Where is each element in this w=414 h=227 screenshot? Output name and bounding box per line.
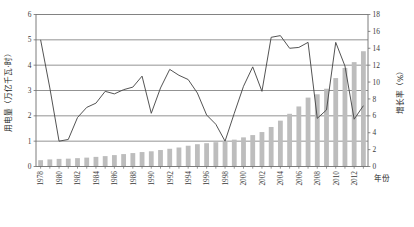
tick-label-x: 1986 xyxy=(110,171,119,186)
tick-label-left: 3 xyxy=(28,86,32,95)
bar-consumption xyxy=(186,146,191,167)
bar-consumption xyxy=(47,159,52,166)
bar-consumption xyxy=(57,159,62,167)
bar-consumption xyxy=(306,98,311,167)
tick-label-right: 12 xyxy=(373,61,381,70)
bar-consumption xyxy=(223,141,228,166)
bar-consumption xyxy=(38,160,43,166)
tick-label-left: 5 xyxy=(28,35,32,44)
bar-consumption xyxy=(232,140,237,167)
tick-label-x: 1984 xyxy=(92,171,101,186)
tick-label-x: 2008 xyxy=(313,171,322,186)
tick-label-x: 2012 xyxy=(350,171,359,186)
tick-label-right: 6 xyxy=(373,111,377,120)
bar-consumption xyxy=(140,152,145,166)
bar-consumption xyxy=(250,135,255,166)
bar-consumption xyxy=(333,78,338,166)
bar-consumption xyxy=(287,114,292,167)
tick-label-x: 2006 xyxy=(295,171,304,186)
tick-label-x: 2002 xyxy=(258,171,267,186)
bar-consumption xyxy=(204,143,209,166)
tick-label-left: 0 xyxy=(28,162,32,171)
bar-consumption xyxy=(278,121,283,167)
bar-consumption xyxy=(84,158,89,167)
bar-consumption xyxy=(130,153,135,166)
bar-consumption xyxy=(103,156,108,166)
tick-label-right: 2 xyxy=(373,145,377,154)
tick-label-left: 1 xyxy=(28,137,32,146)
bar-consumption xyxy=(352,62,357,166)
tick-label-right: 10 xyxy=(373,78,381,87)
bar-consumption xyxy=(167,149,172,167)
tick-label-left: 2 xyxy=(28,111,32,120)
bar-consumption xyxy=(195,144,200,166)
bar-consumption xyxy=(177,148,182,167)
electricity-consumption-growth-chart: 0123456024681012141618197819801982198419… xyxy=(0,0,414,227)
bar-consumption xyxy=(158,150,163,166)
tick-label-x: 1982 xyxy=(73,171,82,186)
figure-caption xyxy=(0,219,414,227)
axis-title-left: 用电量（万亿千瓦·时） xyxy=(3,49,13,131)
bar-consumption xyxy=(213,142,218,166)
axis-title-x: 年份 xyxy=(374,173,390,183)
bar-consumption xyxy=(241,137,246,166)
bar-consumption xyxy=(121,154,126,166)
bar-consumption xyxy=(260,132,265,166)
tick-label-x: 1994 xyxy=(184,171,193,186)
tick-label-left: 4 xyxy=(28,61,32,70)
bar-consumption xyxy=(112,155,117,166)
bar-consumption xyxy=(149,151,154,166)
bar-consumption xyxy=(66,159,71,167)
tick-label-x: 2000 xyxy=(239,171,248,186)
tick-label-x: 1988 xyxy=(129,171,138,186)
tick-label-x: 2004 xyxy=(276,171,285,186)
tick-label-right: 8 xyxy=(373,95,377,104)
tick-label-right: 18 xyxy=(373,10,381,19)
tick-label-x: 1980 xyxy=(55,171,64,186)
tick-label-right: 4 xyxy=(373,128,377,137)
tick-label-left: 6 xyxy=(28,10,32,19)
bar-consumption xyxy=(75,158,80,166)
bar-consumption xyxy=(269,127,274,167)
chart-figure: 0123456024681012141618197819801982198419… xyxy=(0,0,414,227)
tick-label-x: 1990 xyxy=(147,171,156,186)
axis-title-right: 增长率（%） xyxy=(395,67,405,114)
bar-consumption xyxy=(296,106,301,166)
tick-label-right: 14 xyxy=(373,44,381,53)
tick-label-x: 2010 xyxy=(332,171,341,186)
tick-label-x: 1992 xyxy=(166,171,175,186)
bar-consumption xyxy=(343,68,348,167)
tick-label-x: 1978 xyxy=(36,171,45,186)
tick-label-right: 0 xyxy=(373,162,377,171)
bar-consumption xyxy=(94,157,99,167)
tick-label-x: 1998 xyxy=(221,171,230,186)
tick-label-x: 1996 xyxy=(202,171,211,186)
tick-label-right: 16 xyxy=(373,27,381,36)
